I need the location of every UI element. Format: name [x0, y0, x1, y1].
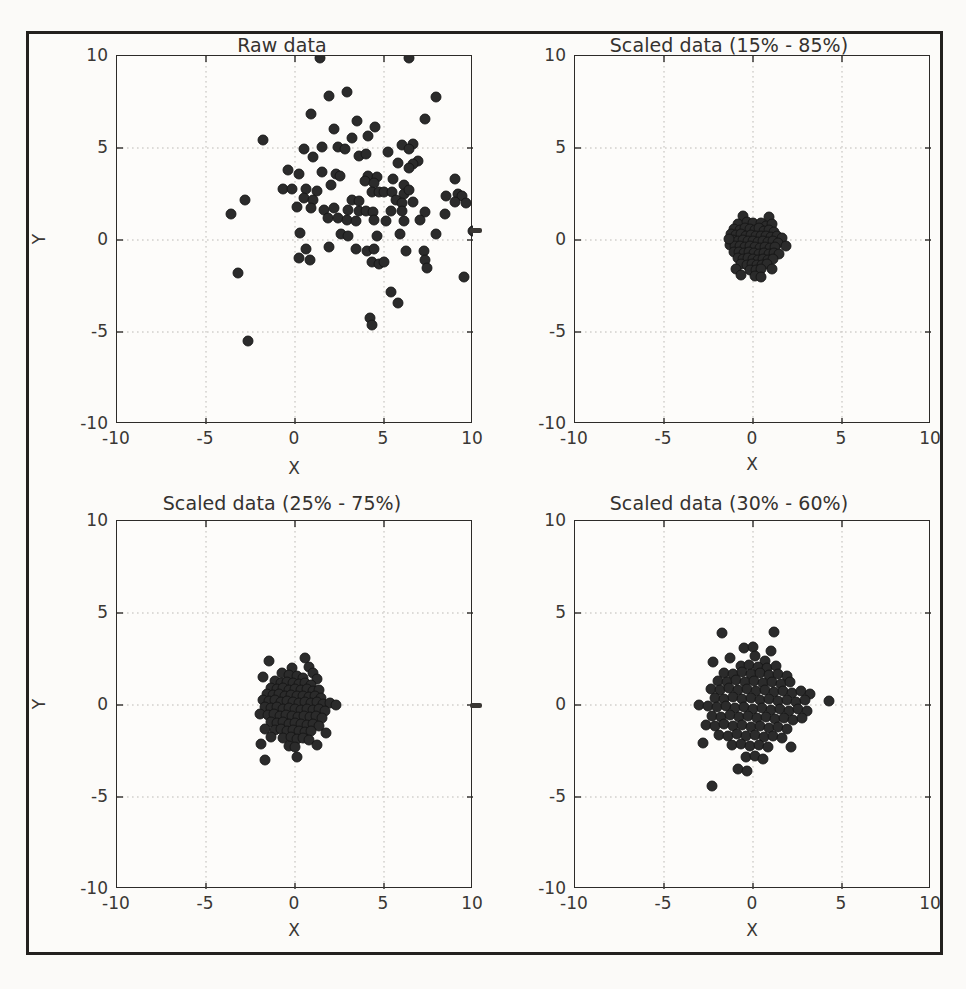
ytick-s1-m5: -5: [514, 321, 566, 341]
xtick-s2-0: 0: [289, 893, 300, 913]
scatter-points-raw: [226, 56, 473, 346]
ytick-s2-m10: -10: [56, 878, 108, 898]
ytick-raw-5: 5: [56, 137, 108, 157]
ytick-s3-m10: -10: [514, 878, 566, 898]
plot-canvas-scaled-30-60: [575, 521, 931, 889]
xtick-raw-m5: -5: [197, 428, 214, 448]
ytick-raw-10: 10: [56, 45, 108, 65]
gridlines-raw: [117, 56, 473, 424]
xtick-raw-5: 5: [378, 428, 389, 448]
panel-raw-data: Raw data: [29, 34, 489, 494]
plot-canvas-scaled-25-75: [117, 521, 473, 889]
xaxis-label-scaled-30-60: X: [746, 920, 758, 940]
xtick-s3-5: 5: [836, 893, 847, 913]
ytick-raw-m5: -5: [56, 321, 108, 341]
xtick-s1-m10: -10: [560, 428, 588, 448]
xaxis-label-scaled-15-85: X: [746, 454, 758, 474]
scatter-points-scaled-25-75: [255, 653, 341, 765]
panel-title-scaled-25-75: Scaled data (25% - 75%): [87, 492, 477, 514]
xtick-raw-10: 10: [461, 428, 483, 448]
panel-title-raw-data: Raw data: [87, 34, 477, 56]
xtick-s3-m5: -5: [655, 893, 672, 913]
xtick-s2-m10: -10: [102, 893, 130, 913]
ytick-s2-m5: -5: [56, 786, 108, 806]
xtick-s1-5: 5: [836, 428, 847, 448]
xtick-s3-10: 10: [919, 893, 941, 913]
axes-raw-data: [116, 55, 472, 423]
xtick-s1-0: 0: [747, 428, 758, 448]
ytick-s3-m5: -5: [514, 786, 566, 806]
plot-canvas-raw: [117, 56, 473, 424]
ytick-s1-10: 10: [514, 45, 566, 65]
xaxis-label-raw: X: [288, 458, 300, 478]
xtick-s3-0: 0: [747, 893, 758, 913]
panel-title-scaled-30-60: Scaled data (30% - 60%): [534, 492, 924, 514]
plot-canvas-scaled-15-85: [575, 56, 931, 424]
ytick-s1-0: 0: [514, 229, 566, 249]
ytick-s2-10: 10: [56, 510, 108, 530]
ytick-s3-5: 5: [514, 602, 566, 622]
ytick-s1-5: 5: [514, 137, 566, 157]
ytick-s3-10: 10: [514, 510, 566, 530]
xtick-raw-m10: -10: [102, 428, 130, 448]
screenshot-page: Raw data: [0, 0, 966, 989]
xtick-s2-5: 5: [378, 893, 389, 913]
panel-scaled-15-85: Scaled data (15% - 85%): [488, 34, 940, 494]
axes-scaled-30-60: [574, 520, 930, 888]
scatter-points-scaled-15-85: [724, 211, 791, 282]
ytick-s1-m10: -10: [514, 413, 566, 433]
figure-container: Raw data: [29, 34, 940, 952]
panel-scaled-30-60: Scaled data (30% - 60%): [488, 492, 940, 952]
yaxis-label-raw: Y: [29, 234, 49, 244]
axes-scaled-25-75: [116, 520, 472, 888]
yaxis-label-scaled-25-75: Y: [29, 699, 49, 709]
ytick-s2-5: 5: [56, 602, 108, 622]
ytick-s2-0: 0: [56, 694, 108, 714]
xtick-s3-m10: -10: [560, 893, 588, 913]
axes-scaled-15-85: [574, 55, 930, 423]
ytick-raw-0: 0: [56, 229, 108, 249]
xtick-s2-m5: -5: [197, 893, 214, 913]
scatter-points-scaled-30-60: [694, 627, 834, 791]
xtick-s1-10: 10: [919, 428, 941, 448]
xaxis-label-scaled-25-75: X: [288, 920, 300, 940]
xtick-raw-0: 0: [289, 428, 300, 448]
ytick-raw-m10: -10: [56, 413, 108, 433]
xtick-s2-10: 10: [461, 893, 483, 913]
panel-title-scaled-15-85: Scaled data (15% - 85%): [534, 34, 924, 56]
axis-edge-marker-scaled-25-75: [470, 703, 482, 708]
ytick-s3-0: 0: [514, 694, 566, 714]
panel-scaled-25-75: Scaled data (25% - 75%): [29, 492, 489, 952]
xtick-s1-m5: -5: [655, 428, 672, 448]
axis-edge-marker-raw: [470, 228, 482, 233]
